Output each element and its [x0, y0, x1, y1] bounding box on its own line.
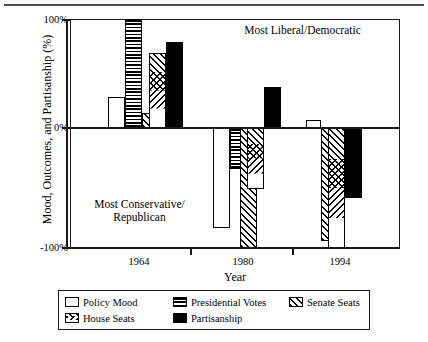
y-tick-label-100: 100% [8, 14, 68, 25]
legend-item-senate-seats: Senate Seats [289, 294, 363, 310]
legend-item-partisanship: Partisanship [173, 310, 289, 326]
legend-swatch-partisanship-icon [173, 313, 187, 323]
x-axis-line [66, 247, 400, 249]
bar-1980-partisanship [264, 87, 281, 128]
legend-label-partisanship: Partisanship [191, 313, 242, 324]
legend-label-policy-mood: Policy Mood [83, 297, 138, 308]
annotation-most-liberal-democratic: Most Liberal/Democratic [215, 24, 390, 37]
bar-1964-policy-mood [108, 97, 125, 128]
legend: Policy Mood Presidential Votes Senate Se… [58, 290, 370, 330]
x-tick-label-1994: 1994 [310, 256, 370, 267]
legend-item-policy-mood: Policy Mood [65, 294, 173, 310]
y-axis-spine [66, 19, 68, 249]
legend-grid: Policy Mood Presidential Votes Senate Se… [59, 291, 369, 329]
chart-figure: Mood, Outcomes, and Partisanship (%) 100… [0, 0, 428, 342]
top-divider-rule [4, 4, 424, 6]
y-tick-label-neg100: -100% [8, 242, 68, 253]
y-tick-label-0: 0% [8, 122, 68, 133]
x-tick-label-1964: 1964 [109, 256, 169, 267]
bar-1994-house-seats [328, 128, 345, 248]
bar-1964-partisanship [166, 42, 183, 128]
x-tick-mark-2 [292, 248, 294, 255]
x-tick-label-1980: 1980 [213, 256, 273, 267]
legend-label-senate-seats: Senate Seats [307, 297, 360, 308]
legend-swatch-policy-mood-icon [65, 297, 79, 307]
legend-item-presidential-votes: Presidential Votes [173, 294, 289, 310]
bar-1994-partisanship [345, 128, 362, 198]
bar-1964-house-seats [149, 53, 166, 128]
x-axis-title: Year [70, 270, 400, 285]
legend-swatch-house-seats-icon [65, 313, 79, 323]
legend-label-presidential-votes: Presidential Votes [191, 297, 266, 308]
annotation-most-conservative-republican: Most Conservative/ Republican [72, 198, 207, 224]
legend-label-house-seats: House Seats [83, 313, 135, 324]
legend-item-house-seats: House Seats [65, 310, 173, 326]
x-tick-mark-1 [190, 248, 192, 255]
bar-1980-policy-mood [213, 128, 230, 228]
bar-1964-presidential-votes [125, 19, 142, 128]
legend-swatch-senate-seats-icon [289, 297, 303, 307]
legend-swatch-presidential-votes-icon [173, 297, 187, 307]
zero-baseline [66, 127, 400, 129]
bar-1980-house-seats [247, 128, 264, 189]
